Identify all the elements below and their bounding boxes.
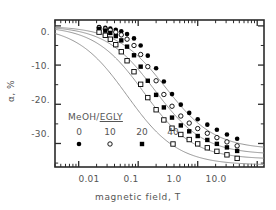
data-point: [205, 138, 209, 142]
data-point: [196, 126, 200, 130]
y-tick-label-minus10: -10.: [16, 61, 50, 71]
data-point: [215, 127, 220, 132]
data-point: [179, 102, 184, 107]
data-point: [225, 145, 229, 149]
data-point: [132, 53, 136, 57]
data-point: [119, 50, 123, 54]
data-point: [108, 37, 112, 41]
x-tick-label-0-01: 0.01: [69, 174, 109, 184]
data-point: [119, 33, 123, 37]
data-point: [114, 34, 118, 38]
figure: α, % magnetic field, T 0. -10. -20. -30.…: [0, 0, 276, 210]
data-point: [170, 92, 175, 97]
data-point: [138, 43, 143, 48]
data-point: [215, 142, 219, 146]
fit-curve-40: [55, 34, 264, 165]
data-point: [97, 30, 101, 34]
x-tick-label-1-0: 1.0: [154, 174, 194, 184]
data-point: [215, 135, 219, 139]
data-point: [162, 79, 167, 84]
legend-title-underlined: EGLY: [100, 112, 123, 122]
data-point: [235, 144, 239, 148]
data-point: [179, 114, 183, 118]
data-point: [187, 137, 191, 141]
legend-marker-0: [77, 142, 82, 147]
data-point: [132, 43, 136, 47]
legend-label-0: 0: [68, 127, 90, 137]
data-point: [187, 121, 191, 125]
data-point: [187, 129, 191, 133]
data-point: [132, 36, 137, 41]
data-point: [215, 149, 219, 153]
data-point: [114, 42, 118, 46]
x-tick-label-10-0: 10.0: [196, 174, 236, 184]
data-point: [196, 134, 200, 138]
legend-label-20: 20: [131, 127, 153, 137]
data-point: [154, 66, 159, 71]
data-point: [162, 105, 166, 109]
y-tick-label-0: 0.: [16, 27, 50, 37]
data-point: [225, 132, 230, 137]
data-point: [196, 142, 200, 146]
data-point: [146, 79, 150, 83]
x-tick-label-0-1: 0.1: [111, 174, 151, 184]
legend-label-40: 40: [162, 127, 184, 137]
data-point: [125, 59, 129, 63]
data-point: [205, 122, 210, 127]
data-point: [235, 136, 240, 141]
data-point: [205, 146, 209, 150]
data-point: [146, 95, 150, 99]
data-point: [195, 117, 200, 122]
data-point: [119, 38, 123, 42]
data-point: [146, 64, 150, 68]
data-point: [170, 115, 174, 119]
legend-marker-20: [140, 142, 144, 146]
data-point: [138, 52, 142, 56]
data-point: [225, 153, 229, 157]
data-point: [125, 44, 129, 48]
plot-frame: [55, 20, 264, 167]
data-point: [162, 118, 166, 122]
data-point: [187, 111, 192, 116]
data-point: [205, 131, 209, 135]
data-point: [235, 156, 239, 160]
data-point: [225, 140, 229, 144]
data-point: [162, 92, 166, 96]
data-point: [103, 28, 107, 32]
y-tick-label-minus20: -20.: [16, 95, 50, 105]
data-point: [125, 32, 130, 37]
data-point: [132, 70, 136, 74]
data-point: [170, 104, 174, 108]
data-point: [108, 31, 112, 35]
y-axis-label: α, %: [6, 68, 16, 114]
legend-title-prefix: MeOH/: [68, 112, 100, 122]
data-point: [154, 93, 158, 97]
data-point: [138, 64, 142, 68]
x-axis-label: magnetic field, T: [0, 192, 276, 202]
data-point: [154, 108, 158, 112]
legend-label-10: 10: [99, 127, 121, 137]
data-point: [138, 82, 142, 86]
data-point: [125, 37, 129, 41]
legend-title: MeOH/EGLY: [68, 112, 123, 122]
data-point: [114, 30, 118, 34]
data-point: [154, 79, 158, 83]
legend-marker-40: [171, 142, 175, 146]
y-tick-label-minus30: -30.: [16, 129, 50, 139]
data-point: [103, 33, 107, 37]
legend-marker-10: [108, 142, 112, 146]
data-point: [235, 149, 239, 153]
data-point: [145, 53, 150, 58]
